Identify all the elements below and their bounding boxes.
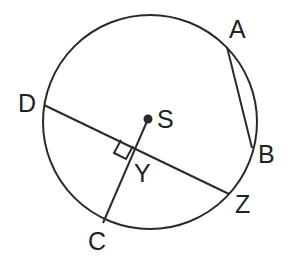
label-z: Z [235, 190, 250, 218]
label-y: Y [134, 159, 151, 187]
label-a: A [229, 15, 246, 43]
label-b: B [258, 140, 275, 168]
label-s: S [157, 105, 174, 133]
center-point-s [144, 115, 153, 124]
label-c: C [88, 227, 106, 255]
label-d: D [18, 89, 36, 117]
circle-diagram: A B D S Y Z C [0, 0, 297, 270]
